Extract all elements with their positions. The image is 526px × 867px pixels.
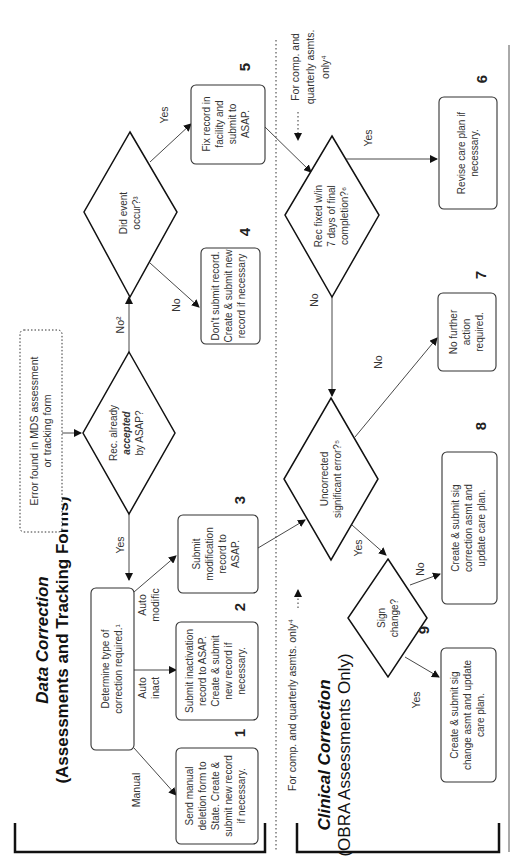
edge-label-auto-modific-1: Auto [136,594,148,616]
decision-uncorrected-line2: significant error?⁵ [332,440,343,518]
p1-line1: Send manual [184,767,195,826]
edge-label-yes-uncorrected: Yes [352,539,364,556]
clinical-correction-title-group: Clinical Correction (OBRA Assessments On… [315,653,354,856]
determine-line1: Determine type of [100,629,111,708]
p4-number: 4 [236,227,253,236]
p1-line3: State. Create & [210,761,221,830]
p2-number: 2 [231,603,248,611]
determine-line2: correction required.¹ [113,624,124,714]
decision-event-line2: occur?³ [131,196,142,230]
clinical-correction-title: Clinical Correction [315,679,334,830]
p8-line1: Create & submit sig [450,484,461,571]
p1-line5: if necessary. [236,768,247,823]
p2-line2: record to ASAP. [197,636,208,706]
p9-line3: care plan. [475,693,486,737]
edge-label-yes-accepted: Yes [114,536,126,553]
p9-line1: Create & submit sig [449,671,460,758]
p4-line3: record if necessary [236,254,247,338]
decision-fixed7-line3: completion?⁶ [339,187,350,245]
flowchart: Data Correction (Assessments and Trackin… [0,0,526,867]
p3-line3: record to [217,534,228,574]
edge-label-auto-modific-2: modific [149,588,161,621]
note-comp-quarterly-right-1: For comp. and [289,33,301,101]
start-text-line1: Error found in MDS assessment [28,357,40,506]
edge-label-no-accepted: No² [114,316,126,333]
p6-line1: Revise care plan if [456,112,467,194]
edge-label-manual: Manual [130,773,142,807]
edge-label-no-event: No [170,298,182,312]
data-correction-title: Data Correction [33,576,52,704]
p9-line2: change asmt and update [462,660,473,771]
p6-line2: necessary. [469,129,480,177]
p3-line4: ASAP. [230,540,241,568]
note-comp-quarterly-right-3: only⁴ [319,55,331,79]
edge-label-no-sign: No [414,562,426,576]
decision-accepted-line1: Rec. already [108,405,119,461]
edge-label-auto-inact-2: inact [149,677,161,699]
p1-number: 1 [231,729,248,737]
p7-line1: No further [448,309,459,354]
p5-line3: submit to [227,103,238,144]
p7-number: 7 [472,271,489,279]
p8-number: 8 [472,422,489,430]
p5-line1: Fix record in [201,96,212,151]
p5-line4: ASAP. [240,110,251,138]
p8-line2: correction asmt and [463,484,474,572]
decision-event-line1: Did event [118,192,129,234]
p2-line1: Submit inactivation [184,629,195,713]
decision-uncorrected-line1: Uncorrected [319,452,330,506]
start-text-line2: or tracking form [41,394,53,467]
edge-label-yes-fixed: Yes [362,129,374,146]
edge-label-auto-inact-1: Auto [136,677,148,699]
note-comp-quarterly-right-2: quarterly asmts. [304,30,316,105]
process-6 [439,97,497,209]
p6-number: 6 [473,75,490,83]
edge-label-yes-sign: Yes [410,691,422,708]
p3-line2: modification [204,527,215,580]
p2-line5: necessary. [236,647,247,695]
decision-signchange-line2: change? [389,598,400,637]
p2-line4: new record if [223,642,234,699]
p5-line2: facility and [214,100,225,147]
edge-label-no-fixed: No [308,293,320,307]
data-correction-title-group: Data Correction (Assessments and Trackin… [33,496,72,783]
decision-fixed7-line1: Rec fixed w/in [313,185,324,247]
p3-number: 3 [231,496,248,504]
p9-number: 9 [415,626,432,634]
p4-line1: Don't submit record. [210,251,221,340]
p7-line3: required. [474,312,485,351]
p8-line3: update care plan. [476,489,487,566]
decision-accepted-line2: accepted [121,410,132,454]
decision-fixed7-line2: 7 days of final [326,185,337,247]
p3-line1: Submit [191,538,202,569]
p5-number: 5 [236,63,253,71]
clinical-correction-subtitle: (OBRA Assessments Only) [335,653,354,856]
p7-line2: action [461,319,472,346]
p1-line2: deletion form to [197,761,208,830]
p4-line2: Create & submit new [223,249,234,343]
data-correction-subtitle: (Assessments and Tracking Forms) [53,496,72,783]
decision-signchange-line1: Sign [376,608,387,628]
edge-label-no-uncorrected: No [372,355,384,369]
edge-label-yes-event: Yes [158,106,170,123]
note-comp-quarterly-left: For comp. and quarterly asmts. only⁴ [286,619,298,791]
p2-line3: Create & submit [210,635,221,707]
p1-line4: submit new record [223,755,234,837]
decision-accepted-line3: by ASAP? [134,410,145,455]
